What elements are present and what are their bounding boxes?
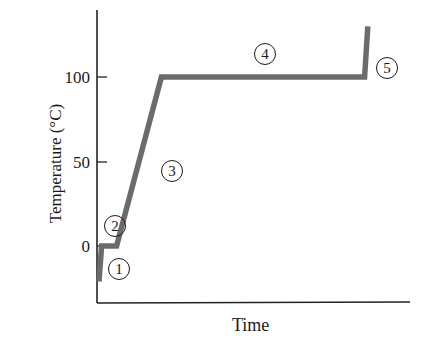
heating-curve-line	[99, 26, 368, 281]
phase-marker-5: 5	[376, 57, 398, 79]
phase-marker-4: 4	[254, 43, 276, 65]
x-axis-label: Time	[232, 316, 269, 334]
phase-marker-2: 2	[104, 215, 126, 237]
phase-marker-3: 3	[161, 160, 183, 182]
y-axis-label: Temperature (°C)	[47, 79, 64, 249]
x-axis	[97, 302, 410, 303]
phase-marker-1: 1	[108, 258, 130, 280]
heating-curve-chart: 100 50 0 Temperature (°C) Time 1 2 3 4 5	[0, 0, 427, 348]
